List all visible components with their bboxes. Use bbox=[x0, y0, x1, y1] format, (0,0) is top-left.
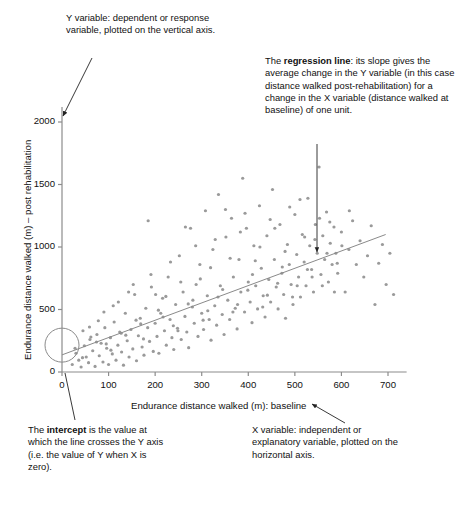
data-point bbox=[199, 277, 202, 280]
data-point bbox=[77, 359, 80, 362]
data-point bbox=[331, 263, 334, 266]
data-point bbox=[291, 295, 294, 298]
data-point bbox=[164, 295, 167, 298]
data-point bbox=[301, 233, 304, 236]
data-point bbox=[184, 225, 187, 228]
data-point bbox=[258, 204, 261, 207]
data-point bbox=[71, 363, 74, 366]
data-point bbox=[290, 283, 293, 286]
data-point bbox=[298, 198, 301, 201]
data-point bbox=[200, 312, 203, 315]
data-point bbox=[271, 188, 274, 191]
data-point bbox=[250, 321, 253, 324]
data-point bbox=[217, 193, 220, 196]
data-point bbox=[336, 262, 339, 265]
data-point bbox=[213, 304, 216, 307]
data-point bbox=[273, 227, 276, 230]
data-point bbox=[312, 290, 315, 293]
data-point bbox=[232, 275, 235, 278]
data-point bbox=[169, 260, 172, 263]
data-point bbox=[388, 252, 391, 255]
data-point bbox=[79, 365, 82, 368]
data-point bbox=[161, 297, 164, 300]
data-point bbox=[124, 312, 127, 315]
data-point bbox=[355, 263, 358, 266]
data-point bbox=[308, 244, 311, 247]
data-point bbox=[239, 290, 242, 293]
data-point bbox=[222, 333, 225, 336]
data-point bbox=[141, 345, 144, 348]
data-point bbox=[296, 284, 299, 287]
data-point bbox=[304, 284, 307, 287]
data-point bbox=[142, 354, 145, 357]
data-point bbox=[221, 288, 224, 291]
data-point bbox=[221, 313, 224, 316]
data-point bbox=[291, 303, 294, 306]
data-point bbox=[209, 339, 212, 342]
data-point bbox=[323, 258, 326, 261]
data-point bbox=[358, 239, 361, 242]
data-point bbox=[224, 235, 227, 238]
data-point bbox=[172, 324, 175, 327]
data-point bbox=[295, 253, 298, 256]
data-point bbox=[87, 361, 90, 364]
x-axis-tick-label: 200 bbox=[144, 379, 166, 390]
data-point bbox=[202, 319, 205, 322]
data-point bbox=[191, 299, 194, 302]
x-axis-tick-label: 100 bbox=[98, 379, 120, 390]
data-point bbox=[163, 329, 166, 332]
data-point bbox=[362, 275, 365, 278]
data-point bbox=[314, 223, 317, 226]
data-point bbox=[97, 319, 100, 322]
data-point bbox=[392, 293, 395, 296]
data-point bbox=[109, 349, 112, 352]
data-point bbox=[159, 312, 162, 315]
data-point bbox=[313, 238, 316, 241]
data-point bbox=[340, 244, 343, 247]
data-point bbox=[260, 267, 263, 270]
data-point bbox=[95, 333, 98, 336]
data-point bbox=[265, 234, 268, 237]
data-point bbox=[146, 326, 149, 329]
data-point bbox=[91, 349, 94, 352]
data-point bbox=[282, 293, 285, 296]
data-point bbox=[196, 335, 199, 338]
data-point bbox=[236, 303, 239, 306]
data-point bbox=[131, 347, 134, 350]
data-point bbox=[239, 230, 242, 233]
data-point bbox=[112, 304, 115, 307]
data-point bbox=[149, 273, 152, 276]
data-point bbox=[150, 285, 153, 288]
x-axis-tick-label: 500 bbox=[284, 379, 306, 390]
data-point bbox=[208, 318, 211, 321]
data-point bbox=[254, 259, 257, 262]
leader-lines-group bbox=[63, 58, 345, 423]
data-point bbox=[116, 344, 119, 347]
data-point bbox=[107, 363, 110, 366]
data-point bbox=[319, 273, 322, 276]
data-point bbox=[328, 220, 331, 223]
data-point bbox=[114, 359, 117, 362]
data-point bbox=[126, 339, 129, 342]
data-point bbox=[147, 219, 150, 222]
data-point bbox=[93, 365, 96, 368]
data-point bbox=[344, 290, 347, 293]
data-point bbox=[102, 310, 105, 313]
data-point bbox=[157, 352, 160, 355]
regression-line bbox=[62, 235, 386, 355]
data-point bbox=[288, 263, 291, 266]
data-point bbox=[303, 260, 306, 263]
data-point bbox=[135, 359, 138, 362]
data-point bbox=[179, 280, 182, 283]
data-point bbox=[139, 317, 142, 320]
data-point bbox=[165, 344, 168, 347]
y-axis-tick-label: 1500 bbox=[34, 178, 55, 189]
data-point bbox=[120, 350, 123, 353]
x-axis-tick-label: 400 bbox=[237, 379, 259, 390]
data-point bbox=[381, 243, 384, 246]
data-point bbox=[215, 324, 218, 327]
data-point bbox=[111, 352, 114, 355]
data-point bbox=[245, 227, 248, 230]
data-point bbox=[148, 340, 151, 343]
data-point bbox=[243, 212, 246, 215]
